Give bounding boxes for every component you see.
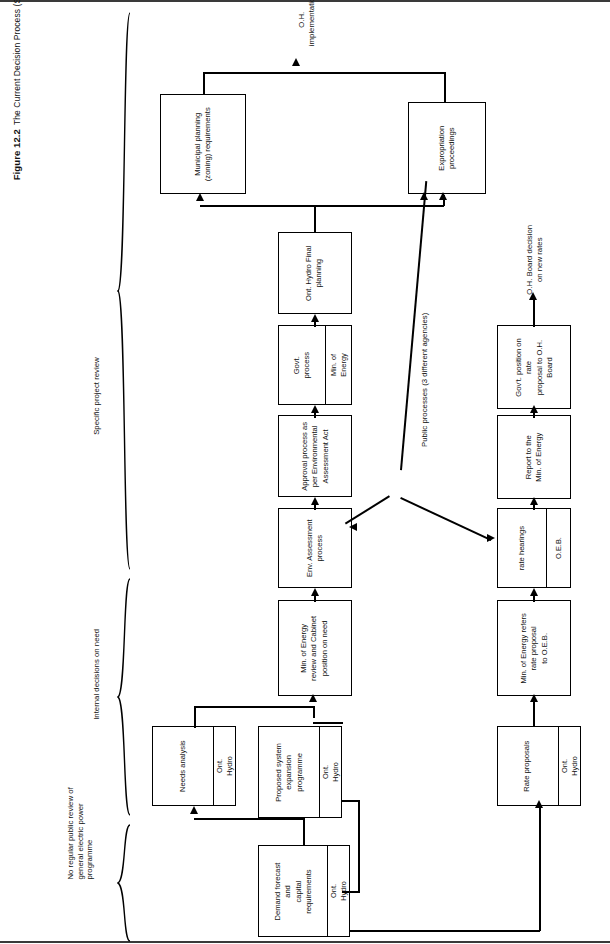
connector-demand-to-needs-vert [303,818,305,845]
arrowhead-public-oeb [487,534,495,542]
connector-demand-to-needs-horz [194,818,304,820]
connector-refers-to-oeb [533,592,535,602]
node-rate-proposals[interactable]: Rate proposals Ont. Hydro [497,726,581,806]
node-env-assessment-body: Env. Assessment process [279,509,351,587]
node-proposed-system-header: Ont. Hydro [319,727,341,817]
connector-needs-to-minenergy-h [194,706,314,708]
node-govt-position-rate[interactable]: Gov't. position on rate proposal to O.H.… [497,325,571,409]
node-govt-position-rate-body: Gov't. position on rate proposal to O.H.… [498,326,570,408]
node-min-energy-review-body: Min. of Energy review and Cabinet positi… [279,601,351,695]
node-needs-analysis-header: Ont. Hydro [213,727,235,805]
node-municipal-planning-body: Municipal planning (zoning) requirements [161,95,245,193]
node-approval-process[interactable]: Approval process as per Environmental As… [278,415,352,497]
node-min-energy-review[interactable]: Min. of Energy review and Cabinet positi… [278,600,352,696]
connector-env-to-approval [314,500,316,510]
node-report-min-energy-body: Report to the Min. of Energy [498,416,570,498]
connector-expropriation-to-impl-h [296,72,446,74]
node-min-energy-refers[interactable]: Min. of Energy refers rate proposal to O… [497,600,571,696]
figure-caption: Figure 12.2 The Current Decision Process… [0,60,168,82]
connector-demand-to-proposed-h2 [342,800,360,802]
connector-municipal-to-impl-v [203,72,205,95]
node-env-assessment[interactable]: Env. Assessment process [278,508,352,588]
node-oeb-rate-hearings-header: O.E.B. [546,509,570,587]
node-expropriation[interactable]: Expropriation proceedings [408,102,486,194]
connector-minenergy-to-env [314,592,316,602]
node-govt-process[interactable]: Govt. process Min. of Energy [278,325,352,405]
connector-report-to-govtpos [533,408,535,418]
node-demand-forecast-body: Demand forecast and capital requirements [259,846,327,936]
node-oeb-rate-hearings-body: rate hearings [498,509,546,587]
connector-rate-to-refers [533,697,535,727]
node-approval-process-body: Approval process as per Environmental As… [279,416,351,496]
bracket-specific [117,12,131,570]
arrowhead-expropriation-in [439,192,447,200]
figure-title: The Current Decision Process (Simplified… [12,0,22,125]
node-rate-proposals-header: Ont. Hydro [558,727,580,805]
annotation-public-processes: Public processes (3 different agencies) [420,285,430,475]
phase-label-specific: Specific project review [92,285,102,435]
connector-needs-to-minenergy-v2 [313,706,315,718]
arrowhead-rate-proposals-in [535,800,543,808]
node-report-min-energy[interactable]: Report to the Min. of Energy [497,415,571,499]
node-municipal-planning[interactable]: Municipal planning (zoning) requirements [160,94,246,194]
node-needs-analysis-body: Needs analysis [153,727,213,805]
node-final-planning[interactable]: Ont. Hydro Final planning [278,232,352,314]
page-rule-bottom [0,941,610,943]
node-oeb-rate-hearings[interactable]: rate hearings O.E.B. [497,508,571,588]
node-proposed-system-body: Proposed system expansion programme [259,727,319,817]
bracket-internal [117,578,131,816]
annotation-oh-board-decision: O.H. Board decision on new rates [525,205,544,315]
phase-label-no-review: No regular public review of general elec… [66,730,95,880]
node-final-planning-body: Ont. Hydro Final planning [279,233,351,313]
arrowhead-needs-analysis-in [190,806,198,814]
connector-oeb-to-report [533,500,535,510]
node-expropriation-body: Expropriation proceedings [409,103,485,193]
arrowhead-municipal-planning-in [196,193,204,201]
phase-label-internal: Internal decisions on need [92,570,102,720]
connector-demand-to-rate-v [539,806,541,931]
connector-demand-to-rate-h [350,930,540,932]
connector-final-to-municipal-v [314,205,316,233]
node-min-energy-refers-body: Min. of Energy refers rate proposal to O… [498,601,570,695]
leader-public-to-oeb [400,497,491,541]
connector-demand-to-proposed-v [358,800,360,892]
node-govt-process-header: Min. of Energy [325,326,351,404]
connector-needs-to-minenergy-v [194,706,196,728]
node-proposed-system[interactable]: Proposed system expansion programme Ont.… [258,726,342,818]
connector-final-to-municipal-h [200,205,316,207]
arrowhead-public-expropriation [420,192,428,200]
connector-approval-to-govt [314,408,316,418]
connector-municipal-to-impl-h [203,72,296,74]
bracket-no-review [117,824,131,942]
connector-proposed-to-minenergy [313,722,343,724]
connector-govt-to-final [314,317,316,327]
node-demand-forecast[interactable]: Demand forecast and capital requirements… [258,845,350,937]
node-rate-proposals-body: Rate proposals [498,727,558,805]
node-needs-analysis[interactable]: Needs analysis Ont. Hydro [152,726,236,806]
node-govt-process-body: Govt. process [279,326,325,404]
arrowhead-minenergy-review-in [309,694,317,702]
arrowhead-public-env [349,523,357,531]
figure-number: Figure 12.2 [11,129,22,180]
annotation-oh-implementation: O.H. implementation [297,0,316,75]
connector-expropriation-to-impl-v [444,72,446,103]
